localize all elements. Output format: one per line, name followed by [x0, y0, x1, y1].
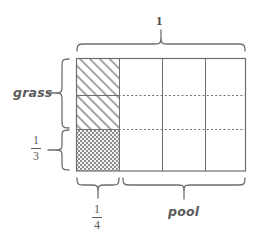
- bottom-brace-one-quarter: [77, 178, 119, 198]
- bottom-brace-pool: [123, 178, 245, 199]
- one-third-numerator: 1: [31, 134, 41, 147]
- checkered-region: [77, 129, 120, 171]
- fraction-area-diagram: 1 grass 1 3 1 4 pool: [0, 0, 263, 246]
- top-brace: [77, 30, 245, 51]
- one-quarter-numerator: 1: [92, 203, 102, 216]
- grass-label: grass: [13, 87, 52, 100]
- one-quarter-denominator: 4: [92, 219, 102, 232]
- grass-hatched-region: [77, 59, 120, 130]
- one-third-label: 1 3: [31, 134, 41, 162]
- one-quarter-label: 1 4: [92, 203, 102, 231]
- left-brace-one-third: [48, 130, 69, 170]
- pool-label: pool: [168, 206, 199, 219]
- total-width-label: 1: [156, 14, 163, 27]
- rectangle-body: [76, 58, 246, 171]
- one-third-denominator: 3: [31, 150, 41, 163]
- diagram-canvas: [0, 0, 263, 246]
